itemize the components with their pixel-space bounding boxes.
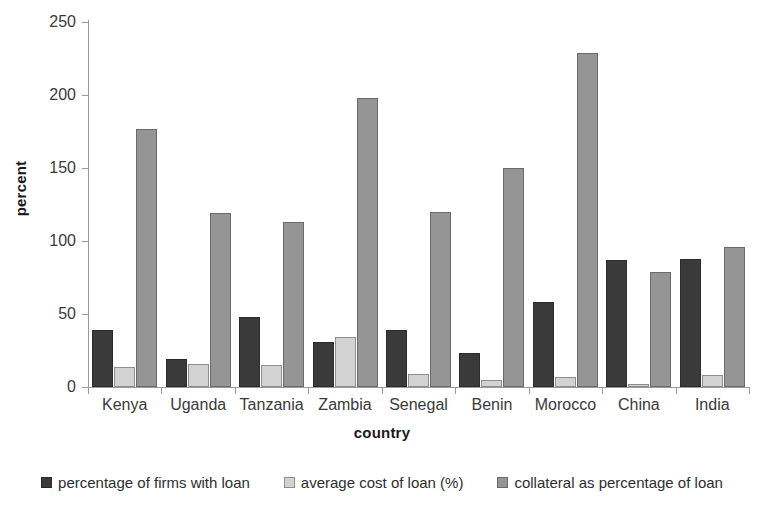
x-axis-category-label: China	[618, 396, 660, 414]
y-axis-tick-label: 100	[20, 232, 76, 250]
x-axis-category-label: Senegal	[389, 396, 448, 414]
bar	[114, 367, 135, 387]
x-axis-category-label: Uganda	[170, 396, 226, 414]
bar	[533, 302, 554, 387]
legend-item: collateral as percentage of loan	[497, 474, 722, 491]
bar	[357, 98, 378, 387]
y-axis-tick-label: 150	[20, 159, 76, 177]
x-axis-tick	[676, 387, 677, 394]
bar	[628, 384, 649, 387]
bar	[136, 129, 157, 387]
x-axis-line	[88, 387, 749, 388]
legend-label: average cost of loan (%)	[301, 474, 464, 491]
bar	[283, 222, 304, 387]
bar	[261, 365, 282, 387]
y-axis-tick	[82, 168, 89, 169]
x-axis-tick	[602, 387, 603, 394]
y-axis-tick-label: 200	[20, 86, 76, 104]
x-axis-title: country	[0, 424, 764, 441]
x-axis-category-label: Benin	[471, 396, 512, 414]
bar	[650, 272, 671, 387]
bar	[386, 330, 407, 387]
y-axis-tick-label: 250	[20, 13, 76, 31]
y-axis-tick-label: 50	[20, 305, 76, 323]
x-axis-tick	[529, 387, 530, 394]
chart-legend: percentage of firms with loanaverage cos…	[0, 474, 764, 491]
bar	[481, 380, 502, 387]
bar	[92, 330, 113, 387]
legend-item: percentage of firms with loan	[41, 474, 250, 491]
bar	[606, 260, 627, 387]
x-axis-category-label: India	[695, 396, 730, 414]
bar	[459, 353, 480, 387]
x-axis-category-label: Kenya	[102, 396, 147, 414]
y-axis-tick	[82, 241, 89, 242]
legend-swatch-icon	[284, 477, 295, 488]
x-axis-category-label: Zambia	[318, 396, 371, 414]
legend-label: percentage of firms with loan	[58, 474, 250, 491]
legend-swatch-icon	[41, 477, 52, 488]
legend-label: collateral as percentage of loan	[514, 474, 722, 491]
bar	[577, 53, 598, 387]
legend-swatch-icon	[497, 477, 508, 488]
x-axis-tick	[308, 387, 309, 394]
x-axis-category-label: Morocco	[535, 396, 596, 414]
x-axis-tick	[161, 387, 162, 394]
x-axis-tick	[88, 387, 89, 394]
x-axis-tick	[235, 387, 236, 394]
x-axis-tick	[382, 387, 383, 394]
bar	[555, 377, 576, 387]
y-axis-tick	[82, 314, 89, 315]
bar-chart: percent 050100150200250 KenyaUgandaTanza…	[0, 0, 764, 521]
bar	[335, 337, 356, 387]
bar	[680, 259, 701, 387]
bar	[503, 168, 524, 387]
bar	[188, 364, 209, 387]
bar	[210, 213, 231, 387]
bar	[724, 247, 745, 387]
x-axis-tick	[455, 387, 456, 394]
bar	[166, 359, 187, 387]
x-axis-tick	[749, 387, 750, 394]
y-axis-tick	[82, 95, 89, 96]
bar	[702, 375, 723, 387]
y-axis-title: percent	[12, 139, 29, 239]
bar	[430, 212, 451, 387]
legend-item: average cost of loan (%)	[284, 474, 464, 491]
bar	[313, 342, 334, 387]
y-axis-tick	[82, 22, 89, 23]
bar	[239, 317, 260, 387]
bar	[408, 374, 429, 387]
y-axis-line	[88, 20, 89, 389]
x-axis-category-label: Tanzania	[240, 396, 304, 414]
y-axis-tick-label: 0	[20, 378, 76, 396]
